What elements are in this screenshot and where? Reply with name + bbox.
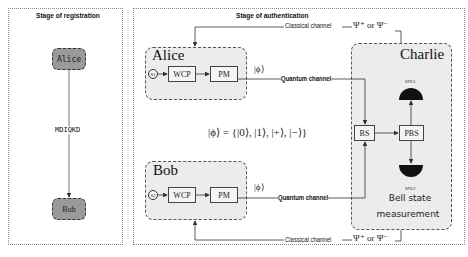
bell-state-label-line2: measurement [368, 208, 448, 221]
bob-source-s2: S2 [148, 190, 158, 200]
classical-channel-top-result: Ψ⁺ or Ψ⁻ [353, 20, 388, 30]
mdiqkd-label: MDIQKD [55, 126, 80, 134]
spd2-label: SPD2 [405, 186, 415, 191]
registration-alice-node: Alice [52, 48, 86, 70]
classical-channel-top-label: Classical channel [285, 22, 331, 29]
bell-state-label-line1: Bell state [375, 192, 445, 205]
alice-wcp-box: WCP [168, 66, 196, 82]
quantum-channel-bottom-label: Quantum channel [278, 194, 328, 201]
classical-channel-bottom-label: Classical channel [285, 236, 331, 243]
spd1-label: SPD1 [405, 79, 415, 84]
spd2-detector-shape [399, 165, 423, 177]
alice-pm-box: PM [210, 66, 238, 82]
quantum-channel-top-label: Quantum channel [281, 75, 331, 82]
classical-channel-bottom-result: Ψ⁺ or Ψ⁻ [353, 233, 388, 243]
alice-source-s1: S1 [148, 69, 158, 79]
registration-bob-node: Bob [52, 198, 86, 220]
bob-pm-box: PM [210, 187, 238, 203]
alice-state-label: |ϕ⟩ [254, 64, 265, 74]
bob-state-label: |ϕ⟩ [254, 182, 265, 192]
pbs-box: PBS [399, 125, 424, 141]
charlie-name: Charlie [400, 46, 444, 63]
state-set-equation: |ϕ⟩ = {|0⟩, |1⟩, |+⟩, |−⟩} [208, 126, 307, 139]
spd1-detector-shape [399, 88, 423, 100]
bob-wcp-box: WCP [168, 187, 196, 203]
bs-box: BS [354, 125, 375, 141]
alice-name: Alice [152, 47, 184, 64]
bob-name: Bob [153, 162, 178, 179]
